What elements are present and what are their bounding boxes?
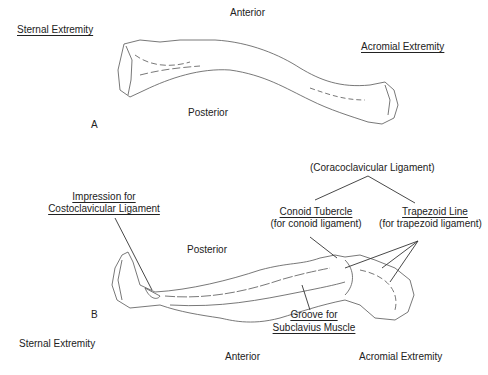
label-a-posterior: Posterior bbox=[188, 107, 228, 119]
label-a-anterior: Anterior bbox=[230, 7, 265, 19]
label-b-sternal-extremity: Sternal Extremity bbox=[19, 338, 95, 350]
label-a-acromial-extremity: Acromial Extremity bbox=[361, 41, 444, 53]
label-trapezoid-line: Trapezoid Line bbox=[392, 206, 478, 218]
bone-drawings bbox=[0, 0, 488, 375]
clavicle-b-illustration bbox=[112, 252, 414, 322]
label-trapezoid-sub: (for trapezoid ligament) bbox=[373, 218, 488, 230]
label-conoid-tubercle: Conoid Tubercle bbox=[274, 206, 358, 218]
label-b-posterior: Posterior bbox=[187, 244, 227, 256]
label-b-acromial-extremity: Acromial Extremity bbox=[359, 351, 442, 363]
panel-label-a: A bbox=[91, 119, 98, 131]
label-a-sternal-extremity: Sternal Extremity bbox=[17, 24, 93, 36]
label-coracoclavicular-ligament: (Coracoclavicular Ligament) bbox=[310, 162, 435, 174]
label-conoid-sub: (for conoid ligament) bbox=[265, 218, 367, 230]
label-impression-line1: Impression for bbox=[46, 191, 162, 203]
panel-label-b: B bbox=[91, 309, 98, 321]
clavicle-a-illustration bbox=[118, 40, 398, 124]
label-groove-line1: Groove for bbox=[274, 309, 354, 321]
label-groove-line2: Subclavius Muscle bbox=[270, 322, 358, 334]
clavicle-diagram: Anterior Sternal Extremity Acromial Extr… bbox=[0, 0, 488, 375]
label-impression-line2: Costoclavicular Ligament bbox=[46, 203, 162, 215]
label-b-anterior: Anterior bbox=[225, 351, 260, 363]
